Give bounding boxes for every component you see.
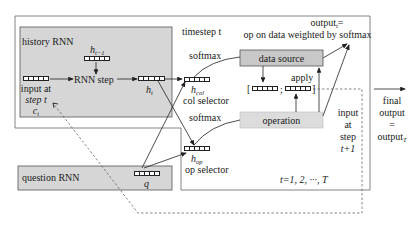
data-source-label: data source [240,53,323,64]
input-vector [23,76,49,81]
output-description: op on data weighted by softmax [240,29,375,40]
softmax-op-label: softmax [189,112,221,123]
operation-label: operation [240,115,323,126]
range-label: t=1, 2, ···, T [280,174,328,185]
input-at-label: input at [18,83,54,94]
h-prev-label: ht−1 [90,44,104,58]
h-t-vector [138,76,165,81]
history-rnn-label: history RNN [22,36,73,47]
bracket-vector-left [252,86,278,91]
bracket-open: [ [247,83,250,94]
h-op-vector [184,146,210,151]
step-t-label: step t [18,94,54,105]
apply-label: apply [291,72,313,83]
op-selector-label: op selector [185,164,229,175]
softmax-col-label: softmax [189,50,221,61]
question-rnn-label: question RNN [22,172,80,183]
bracket-separator: ; [280,84,283,95]
bracket-vector-right [285,86,311,91]
timestep-label: timestep t [182,26,221,37]
bracket-close: ] [312,83,315,94]
h-t-label: ht [146,84,153,98]
c-t-label: ct [18,105,54,119]
q-vector [134,171,160,176]
col-selector-label: col selector [183,95,229,106]
input-next-step-label: input at step t+1 [334,107,362,155]
final-output-label: final output = outputT [372,95,412,146]
neural-programmer-diagram: history RNN question RNN data source ope… [0,0,418,227]
q-label: q [144,178,149,189]
h-col-vector [184,77,210,82]
rnn-step-label: RNN step [74,74,114,85]
